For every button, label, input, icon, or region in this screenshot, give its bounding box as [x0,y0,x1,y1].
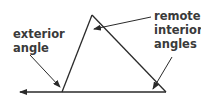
exterior-label-line1: exterior [13,27,65,41]
triangle-exterior-angle-diagram: exterior angle remote interior angles [0,0,201,106]
remote-label-line1: remote [154,9,201,23]
remote-label-line2: interior [154,23,201,37]
triangle-left-side [62,15,92,92]
remote-label-line3: angles [154,37,197,51]
exterior-label-line2: angle [13,41,49,55]
remote-angle-top-pointer-arrow [94,17,151,29]
remote-angle-bottom-pointer-arrow [153,57,172,89]
exterior-angle-pointer-arrow [30,55,60,87]
